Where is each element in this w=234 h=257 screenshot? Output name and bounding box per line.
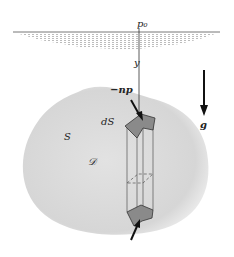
y-axis-label: y <box>134 58 140 68</box>
diagram-canvas <box>0 0 234 257</box>
surface-label: S <box>64 132 71 142</box>
fluid-body <box>23 87 209 235</box>
free-surface <box>13 32 220 50</box>
surface-element-label: dS <box>101 117 114 127</box>
normal-force-label: −np <box>110 85 133 95</box>
gravity-label: g <box>200 120 207 130</box>
surface-pressure-label: p₀ <box>137 19 147 29</box>
hydrostatic-diagram: p₀ y −np dS S 𝒟 g <box>0 0 234 257</box>
gravity-arrow <box>200 70 208 116</box>
volume-label: 𝒟 <box>88 157 96 167</box>
